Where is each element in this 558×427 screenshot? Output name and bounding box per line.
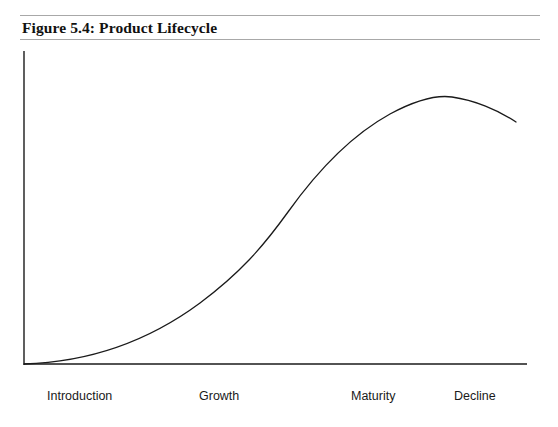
stage-label-row: Introduction Growth Maturity Decline [0, 389, 558, 409]
figure-title: Figure 5.4: Product Lifecycle [20, 16, 540, 39]
lifecycle-curve [24, 97, 516, 364]
stage-label-decline: Decline [454, 389, 496, 403]
stage-label-maturity: Maturity [351, 389, 395, 403]
figure-page: Figure 5.4: Product Lifecycle Introducti… [0, 0, 558, 427]
figure-caption-block: Figure 5.4: Product Lifecycle [20, 15, 540, 40]
stage-label-introduction: Introduction [47, 389, 112, 403]
chart-svg [0, 40, 558, 385]
product-lifecycle-chart [0, 40, 558, 385]
stage-label-growth: Growth [199, 389, 239, 403]
